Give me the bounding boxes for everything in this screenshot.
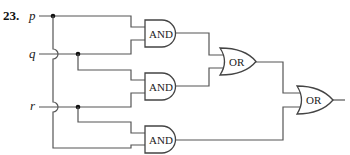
- and-gate-2-label: AND: [149, 81, 173, 93]
- wire-and2-to-or1: [175, 68, 224, 86]
- wire-r-to-and3: [78, 107, 145, 133]
- or-gate-2-label: OR: [306, 94, 322, 106]
- wire-q-to-and1: [39, 40, 145, 54]
- input-label-r: r: [30, 98, 36, 113]
- wire-p-to-and1: [39, 16, 145, 27]
- and-gate-3-label: AND: [149, 134, 173, 146]
- wire-r-to-and2: [39, 93, 145, 107]
- wire-q-to-and2: [78, 54, 145, 80]
- and-gate-1: AND: [145, 20, 176, 47]
- input-label-q: q: [29, 46, 36, 61]
- logic-circuit: 23. p q r AND AND AND OR OR: [0, 0, 350, 155]
- wire-and1-to-or1: [175, 33, 224, 55]
- input-label-p: p: [28, 8, 36, 23]
- wire-or1-to-or2: [255, 62, 300, 93]
- or-gate-2: OR: [297, 86, 333, 114]
- or-gate-1: OR: [220, 48, 256, 75]
- or-gate-1-label: OR: [229, 56, 245, 68]
- wire-and3-to-or2: [175, 107, 300, 140]
- and-gate-1-label: AND: [149, 28, 173, 40]
- and-gate-3: AND: [145, 126, 176, 153]
- problem-number: 23.: [3, 8, 19, 23]
- and-gate-2: AND: [145, 73, 176, 100]
